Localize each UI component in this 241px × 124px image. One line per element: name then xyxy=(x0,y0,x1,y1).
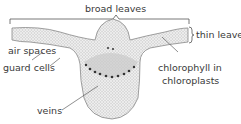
label-guard-cells: guard cells xyxy=(3,62,55,73)
label-thin-leaves: thin leaves xyxy=(196,29,241,40)
label-broad-leaves: broad leaves xyxy=(85,3,146,14)
label-air-spaces: air spaces xyxy=(8,45,56,56)
broad-leaves-bracket xyxy=(10,15,189,24)
label-veins: veins xyxy=(37,105,62,116)
label-chlorophyll-line1: chlorophyll in xyxy=(158,62,222,73)
label-chlorophyll-line2: chloroplasts xyxy=(162,75,219,86)
thin-leaves-bracket xyxy=(189,27,194,43)
